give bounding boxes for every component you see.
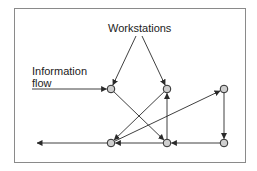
workstations-label: Workstations [108, 22, 171, 34]
information-flow-line-1: Information [32, 65, 87, 77]
workstation-node-A [107, 85, 115, 93]
flow-arrow-workstations-label-to-B [142, 36, 165, 85]
workstation-node-C [220, 85, 228, 93]
flow-arrow-workstations-label-to-A [113, 36, 136, 85]
workstation-node-D [107, 139, 115, 147]
workstation-node-B [163, 85, 171, 93]
information-flow-label: Information flow [32, 65, 87, 89]
information-flow-line-2: flow [32, 77, 87, 89]
workstation-node-F [220, 139, 228, 147]
workstation-node-E [163, 139, 171, 147]
